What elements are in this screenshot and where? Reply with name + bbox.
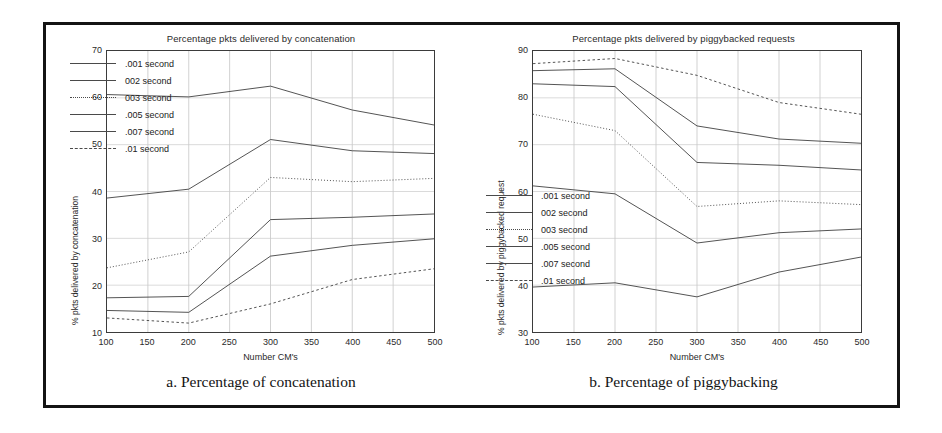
x-axis-tick: 500: [854, 337, 869, 347]
x-axis-tick: 200: [607, 337, 622, 347]
legend-item-label: .001 second: [541, 191, 590, 201]
legend-item-label: 003 second: [125, 93, 172, 103]
legend-item[interactable]: .005 second: [70, 106, 174, 123]
chart-title-b: Percentage pkts delivered by piggybacked…: [464, 33, 903, 44]
x-axis-tick: 150: [566, 337, 581, 347]
legend-item[interactable]: 003 second: [486, 221, 590, 238]
legend-line-sample: [70, 80, 116, 81]
legend-item-label: .007 second: [125, 127, 174, 137]
legend-line-sample: [70, 63, 116, 64]
legend-item[interactable]: .007 second: [70, 123, 174, 140]
legend-item-label: 003 second: [541, 225, 588, 235]
y-axis-tick: 80: [506, 92, 528, 102]
x-axis-tick: 250: [648, 337, 663, 347]
legend-item-label: .01 second: [541, 276, 585, 286]
x-axis-tick: 200: [181, 337, 196, 347]
x-axis-tick: 300: [689, 337, 704, 347]
legend-line-sample: [486, 246, 532, 247]
y-axis-tick: 70: [506, 139, 528, 149]
legend-item[interactable]: .007 second: [486, 255, 590, 272]
legend-item[interactable]: 002 second: [486, 204, 590, 221]
x-axis-tick: 400: [772, 337, 787, 347]
panel-caption-a: a. Percentage of concatenation: [46, 373, 476, 391]
y-axis-tick: 90: [506, 45, 528, 55]
y-axis-tick: 40: [506, 281, 528, 291]
y-axis-tick: 50: [506, 234, 528, 244]
x-axis-tick: 450: [813, 337, 828, 347]
y-axis-tick: 70: [80, 45, 102, 55]
legend-item[interactable]: .01 second: [486, 272, 590, 289]
y-axis-tick: 40: [80, 187, 102, 197]
figure-panel-b: Percentage pkts delivered by piggybacked…: [464, 25, 903, 405]
chart-title-a: Percentage pkts delivered by concatenati…: [46, 33, 476, 44]
figure-panel-a: Percentage pkts delivered by concatenati…: [46, 25, 476, 405]
legend-item-label: 002 second: [541, 208, 588, 218]
legend-item-label: .005 second: [541, 242, 590, 252]
figure-frame: Percentage pkts delivered by concatenati…: [43, 22, 900, 408]
x-axis-tick: 300: [263, 337, 278, 347]
y-axis-label-a: % pkts delivered by concatenation: [70, 196, 80, 325]
y-axis-tick: 50: [80, 139, 102, 149]
x-axis-tick: 500: [427, 337, 442, 347]
panel-caption-b: b. Percentage of piggybacking: [464, 373, 903, 391]
legend-item[interactable]: 002 second: [70, 72, 174, 89]
legend-line-sample: [486, 212, 532, 213]
x-axis-tick: 100: [524, 337, 539, 347]
legend-line-sample: [486, 229, 532, 230]
x-axis-label-b: Number CM's: [532, 352, 862, 362]
chart-legend-b: .001 second002 second003 second.005 seco…: [486, 187, 590, 289]
x-axis-label-a: Number CM's: [106, 352, 435, 362]
x-axis-tick: 350: [731, 337, 746, 347]
legend-item-label: 002 second: [125, 76, 172, 86]
x-axis-tick: 150: [140, 337, 155, 347]
legend-line-sample: [70, 114, 116, 115]
legend-item[interactable]: .005 second: [486, 238, 590, 255]
x-axis-tick: 100: [98, 337, 113, 347]
y-axis-tick: 60: [80, 92, 102, 102]
x-axis-tick: 350: [304, 337, 319, 347]
legend-item-label: .01 second: [125, 144, 169, 154]
legend-line-sample: [486, 263, 532, 264]
y-axis-tick: 30: [80, 234, 102, 244]
legend-line-sample: [70, 131, 116, 132]
y-axis-tick: 20: [80, 281, 102, 291]
legend-item-label: .005 second: [125, 110, 174, 120]
x-axis-tick: 450: [386, 337, 401, 347]
x-axis-tick: 400: [345, 337, 360, 347]
legend-item[interactable]: .001 second: [70, 55, 174, 72]
legend-item-label: .001 second: [125, 59, 174, 69]
y-axis-tick: 60: [506, 187, 528, 197]
legend-item-label: .007 second: [541, 259, 590, 269]
x-axis-tick: 250: [222, 337, 237, 347]
legend-item[interactable]: .001 second: [486, 187, 590, 204]
